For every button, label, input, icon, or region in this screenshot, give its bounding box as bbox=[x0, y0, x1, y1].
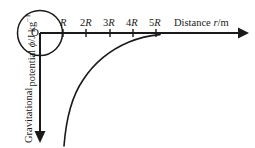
figure-canvas: O R 2R 3R 4R 5R Distance r/m Gravitation… bbox=[0, 0, 255, 148]
y-axis-title-variable: ϕ bbox=[26, 42, 37, 47]
x-axis-arrowhead bbox=[238, 28, 249, 39]
tick-label-5R-variable: R bbox=[154, 17, 160, 28]
x-axis-title: Distance r/m bbox=[174, 18, 229, 29]
x-axis-title-prefix: Distance bbox=[174, 17, 213, 28]
tick-label-4R: 4R bbox=[126, 18, 138, 29]
y-axis-title-exponent: −1 bbox=[24, 14, 32, 21]
tick-label-R-variable: R bbox=[60, 17, 66, 28]
potential-curve bbox=[64, 35, 160, 146]
y-axis-title: Gravitational potential ϕ/J kg−1 bbox=[23, 14, 37, 143]
tick-label-R: R bbox=[60, 18, 66, 29]
tick-label-5R: 5R bbox=[149, 18, 161, 29]
tick-label-4R-variable: R bbox=[131, 17, 137, 28]
y-axis-title-line2: potential ϕ/J kg−1 bbox=[23, 14, 37, 86]
y-axis-title-prefix: potential bbox=[26, 47, 37, 86]
tick-label-3R-variable: R bbox=[108, 17, 114, 28]
x-axis-title-suffix: /m bbox=[217, 17, 228, 28]
y-axis-title-unit: /J kg bbox=[26, 22, 37, 42]
y-axis-title-line1: Gravitational bbox=[23, 88, 34, 143]
tick-label-2R-variable: R bbox=[85, 17, 91, 28]
tick-label-3R: 3R bbox=[103, 18, 115, 29]
tick-label-2R: 2R bbox=[80, 18, 92, 29]
